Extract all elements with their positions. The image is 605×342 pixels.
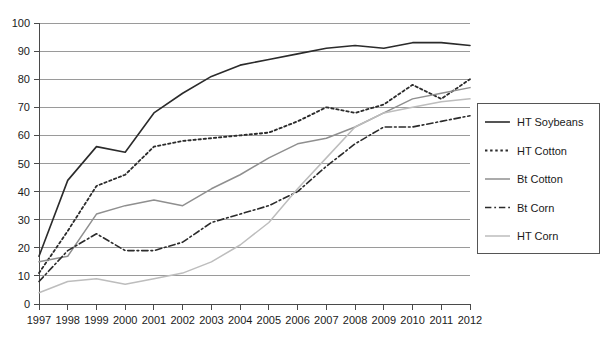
x-axis-tick-label: 2010 <box>400 314 424 326</box>
legend-label-ht-cotton[interactable]: HT Cotton <box>517 145 567 157</box>
y-axis-tick-label: 80 <box>18 73 30 85</box>
chart-figure: 0102030405060708090100199719981999200020… <box>0 0 605 342</box>
y-axis-tick-label: 50 <box>18 158 30 170</box>
x-axis-tick-label: 2004 <box>228 314 252 326</box>
x-axis-tick-label: 2012 <box>458 314 482 326</box>
y-axis-tick-label: 70 <box>18 101 30 113</box>
x-axis-tick-label: 1999 <box>84 314 108 326</box>
y-axis-tick-label: 40 <box>18 186 30 198</box>
x-axis-tick-label: 2001 <box>142 314 166 326</box>
legend-label-ht-corn[interactable]: HT Corn <box>517 230 558 242</box>
x-axis-tick-label: 2005 <box>257 314 281 326</box>
y-axis-tick-label: 0 <box>24 298 30 310</box>
x-axis-tick-label: 1998 <box>55 314 79 326</box>
x-axis-tick-label: 2006 <box>285 314 309 326</box>
series-line-bt-corn <box>39 116 470 282</box>
x-axis-tick-label: 2007 <box>314 314 338 326</box>
x-axis-tick-label: 2002 <box>170 314 194 326</box>
y-axis-tick-label: 20 <box>18 242 30 254</box>
x-axis-tick-label: 2003 <box>199 314 223 326</box>
legend-label-bt-cotton[interactable]: Bt Cotton <box>517 173 563 185</box>
x-axis-tick-label: 2009 <box>372 314 396 326</box>
y-axis-tick-label: 10 <box>18 270 30 282</box>
legend-label-bt-corn[interactable]: Bt Corn <box>517 202 554 214</box>
y-axis-tick-label: 90 <box>18 45 30 57</box>
y-axis-tick-label: 100 <box>12 17 30 29</box>
series-line-bt-cotton <box>39 88 470 262</box>
legend-label-ht-soybeans[interactable]: HT Soybeans <box>517 116 584 128</box>
line-chart: 0102030405060708090100199719981999200020… <box>0 0 605 342</box>
series-line-ht-corn <box>39 99 470 293</box>
y-axis-tick-label: 60 <box>18 129 30 141</box>
series-line-ht-soybeans <box>39 43 470 257</box>
x-axis-tick-label: 2000 <box>113 314 137 326</box>
x-axis-tick-label: 1997 <box>27 314 51 326</box>
y-axis-tick-label: 30 <box>18 214 30 226</box>
x-axis-tick-label: 2008 <box>343 314 367 326</box>
x-axis-tick-label: 2011 <box>429 314 453 326</box>
